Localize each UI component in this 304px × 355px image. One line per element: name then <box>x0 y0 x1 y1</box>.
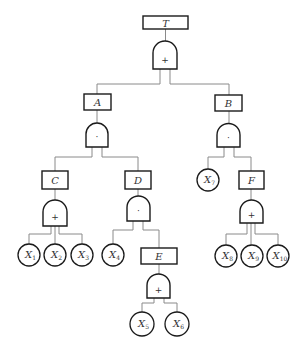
basic-event-x7: X7 <box>197 169 219 191</box>
event-c: C <box>42 171 68 189</box>
basic-event-x8: X8 <box>215 245 237 267</box>
basic-event-x4: X4 <box>102 244 124 266</box>
basic-event-x3: X3 <box>71 244 93 266</box>
event-label: B <box>224 98 232 109</box>
event-f: F <box>239 171 264 189</box>
event-label: F <box>247 175 256 186</box>
event-e: E <box>141 248 177 264</box>
event-t: T <box>143 16 188 29</box>
gate-symbol: + <box>155 285 163 295</box>
event-label: D <box>133 175 142 186</box>
gate-symbol: + <box>51 212 59 222</box>
event-a: A <box>84 94 111 110</box>
gate-symbol: · <box>227 133 230 143</box>
or-gate-t: + <box>153 41 177 69</box>
basic-event-x2: X2 <box>44 244 66 266</box>
basic-event-x9: X9 <box>241 245 263 267</box>
or-gate-e: + <box>147 274 170 298</box>
or-gate-f: + <box>240 200 263 223</box>
gate-symbol: · <box>96 132 99 142</box>
event-label: C <box>51 175 59 186</box>
basic-event-x10: X10 <box>267 245 289 267</box>
and-gate-a: · <box>86 123 108 147</box>
event-d: D <box>125 171 151 189</box>
or-gate-c: + <box>43 200 67 226</box>
and-gate-b: · <box>217 124 240 147</box>
gate-symbol: + <box>161 55 169 65</box>
gate-symbol: + <box>248 210 256 220</box>
fault-tree-diagram: T + A · B · C + D · E <box>0 0 304 355</box>
basic-event-x6: X6 <box>165 312 189 336</box>
gate-symbol: · <box>137 206 140 216</box>
event-label: E <box>154 251 163 262</box>
basic-event-x5: X5 <box>130 312 154 336</box>
event-label: A <box>93 97 101 108</box>
and-gate-d: · <box>127 196 150 221</box>
event-b: B <box>215 95 242 111</box>
basic-event-x1: X1 <box>18 244 40 266</box>
